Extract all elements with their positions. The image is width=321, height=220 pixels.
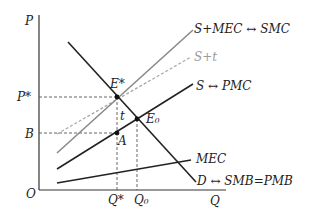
q-star-label: Q* (108, 193, 124, 207)
t-label: t (120, 109, 125, 123)
demand-label: D ↔ SMB=PMB (196, 174, 293, 188)
e-star-point (115, 95, 120, 100)
a-label: A (117, 134, 127, 148)
p-star-label: P* (16, 90, 31, 104)
mec-label: MEC (195, 152, 226, 166)
smc-label: S+MEC ↔ SMC (194, 22, 290, 36)
q0-label: Q₀ (134, 193, 149, 207)
externality-diagram: P Q O P* B Q* Q₀ E* E₀ A t S+MEC ↔ SMC S… (0, 0, 321, 220)
origin-label: O (26, 187, 36, 201)
pmc-label: S ↔ PMC (196, 79, 251, 93)
demand-curve (68, 42, 196, 182)
e0-label: E₀ (145, 112, 160, 126)
e-star-label: E* (109, 77, 125, 91)
s-plus-t-label: S+t (194, 50, 217, 64)
x-axis-label: Q (210, 194, 220, 208)
e0-point (135, 117, 140, 122)
y-axis-label: P (24, 14, 34, 28)
b-label: B (24, 127, 34, 141)
mec-curve (57, 160, 191, 183)
